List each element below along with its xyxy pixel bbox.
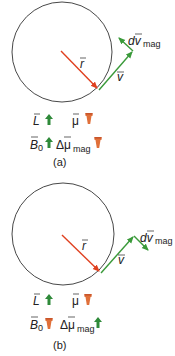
B0-up-arrow-icon (45, 137, 53, 148)
v-label: v (118, 253, 125, 267)
svg-text:r: r (80, 57, 85, 71)
dv-mag-label: dv mag (128, 34, 161, 49)
mu-down-arrow-icon (86, 113, 93, 124)
svg-text:μ: μ (72, 294, 79, 308)
mu-down-arrow-icon (85, 294, 92, 305)
dmu-mag-legend: Δμ mag (56, 137, 102, 154)
B0-legend: B 0 (30, 137, 53, 153)
svg-text:Δμ: Δμ (56, 138, 71, 152)
svg-text:mag: mag (73, 144, 91, 154)
B0-legend: B 0 (30, 317, 53, 333)
L-up-arrow-icon (45, 114, 53, 125)
caption-a: (a) (53, 156, 66, 168)
v-vector-arrow (101, 237, 133, 273)
svg-text:0: 0 (38, 143, 43, 153)
panel-a: r v dv mag L μ B 0 (12, 2, 161, 168)
r-vector-arrow (62, 235, 99, 271)
mu-legend: μ (72, 294, 92, 308)
L-up-arrow-icon (45, 294, 53, 305)
panel-b: r v dv mag L μ B 0 Δμ (12, 183, 173, 351)
mu-legend: μ (72, 113, 93, 128)
svg-text:L: L (33, 114, 40, 128)
r-label: r (80, 57, 86, 71)
orbit-circle (12, 183, 114, 285)
L-legend: L (33, 294, 53, 308)
svg-text:r: r (82, 239, 87, 253)
svg-text:B: B (30, 138, 38, 152)
figure: r v dv mag L μ B 0 (0, 0, 175, 356)
dmu-down-arrow-icon (95, 137, 102, 148)
svg-text:dv: dv (128, 34, 142, 48)
r-label: r (82, 239, 88, 253)
v-vector-arrow (99, 52, 132, 90)
r-vector-arrow (61, 51, 97, 88)
v-label: v (117, 70, 124, 84)
svg-text:0: 0 (38, 323, 43, 333)
dmu-up-arrow-icon (94, 317, 102, 328)
svg-text:dv: dv (140, 231, 154, 245)
svg-text:mag: mag (155, 236, 173, 246)
dv-mag-label: dv mag (140, 231, 173, 246)
B0-down-arrow-icon (46, 318, 53, 329)
L-legend: L (33, 114, 53, 128)
svg-text:μ: μ (72, 114, 79, 128)
caption-b: (b) (53, 339, 66, 351)
dmu-mag-legend: Δμ mag (60, 317, 102, 334)
svg-text:Δμ: Δμ (60, 318, 75, 332)
svg-text:B: B (30, 318, 38, 332)
svg-text:mag: mag (77, 324, 95, 334)
svg-text:mag: mag (143, 39, 161, 49)
svg-text:L: L (33, 294, 40, 308)
